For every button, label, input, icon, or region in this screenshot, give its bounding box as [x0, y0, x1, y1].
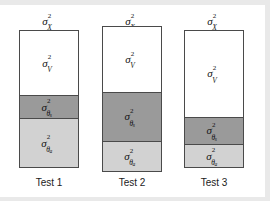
- superscript-two-glyph: 2: [212, 121, 216, 129]
- superscript-two-glyph: 2: [47, 97, 51, 105]
- superscript-two-glyph: 2: [48, 53, 52, 61]
- scan-edge-right: [265, 0, 270, 201]
- subscript-a-glyph: a: [132, 161, 135, 167]
- variance-decomposition-figure: σ2X σ2V σ2θs σ2θa Test 1 σ2: [0, 0, 270, 201]
- subscript-s-glyph: s: [133, 122, 135, 128]
- subscript-v-glyph: V: [212, 76, 217, 85]
- segment-systematic-error-test-1: σ2θs: [20, 95, 78, 118]
- scan-edge-bottom: [0, 197, 270, 201]
- category-label-test-3: Test 3: [184, 178, 244, 188]
- systematic-error-variance-label-test-3: σ2θs: [207, 121, 222, 140]
- segment-true-score-test-3: σ2V: [185, 31, 243, 117]
- superscript-two-glyph: 2: [130, 107, 134, 115]
- subscript-v-glyph: V: [47, 65, 52, 74]
- superscript-two-glyph: 2: [47, 133, 51, 141]
- bar-column-test-3: σ2X σ2V σ2θs σ2θa Test 3: [184, 12, 244, 194]
- subscript-a-glyph: a: [214, 161, 217, 167]
- segment-true-score-test-1: σ2V: [20, 31, 78, 95]
- scan-edge-top: [0, 0, 270, 5]
- subscript-a-glyph: a: [49, 148, 52, 154]
- subscript-s-glyph: s: [50, 112, 52, 118]
- superscript-two-glyph: 2: [48, 12, 52, 20]
- true-score-variance-label-test-3: σ2V: [207, 64, 221, 83]
- superscript-two-glyph: 2: [212, 146, 216, 154]
- total-variance-label-test-3: σ2X: [184, 12, 244, 31]
- total-variance-label-test-1: σ2X: [19, 12, 79, 31]
- random-error-variance-label-test-3: σ2θa: [206, 147, 221, 166]
- superscript-two-glyph: 2: [131, 12, 135, 20]
- random-error-variance-label-test-1: σ2θa: [41, 134, 56, 153]
- segment-systematic-error-test-2: σ2θs: [103, 92, 161, 141]
- category-label-test-1: Test 1: [19, 178, 79, 188]
- random-error-variance-label-test-2: σ2θa: [124, 147, 139, 166]
- segment-random-error-test-2: σ2θa: [103, 141, 161, 171]
- superscript-two-glyph: 2: [213, 64, 217, 72]
- stacked-bar-test-1: σ2V σ2θs σ2θa: [19, 30, 79, 168]
- segment-random-error-test-3: σ2θa: [185, 144, 243, 167]
- superscript-two-glyph: 2: [131, 50, 135, 58]
- superscript-two-glyph: 2: [213, 12, 217, 20]
- stacked-bar-test-2: σ2V σ2θs σ2θa: [102, 26, 162, 172]
- segment-random-error-test-1: σ2θa: [20, 118, 78, 167]
- systematic-error-variance-label-test-2: σ2θs: [125, 107, 140, 126]
- bar-column-test-1: σ2X σ2V σ2θs σ2θa Test 1: [19, 12, 79, 194]
- segment-true-score-test-2: σ2V: [103, 27, 161, 92]
- stacked-bar-test-3: σ2V σ2θs σ2θa: [184, 30, 244, 168]
- superscript-two-glyph: 2: [130, 147, 134, 155]
- subscript-v-glyph: V: [130, 61, 135, 70]
- subscript-s-glyph: s: [215, 136, 217, 142]
- systematic-error-variance-label-test-1: σ2θs: [42, 98, 57, 117]
- true-score-variance-label-test-1: σ2V: [42, 54, 56, 73]
- segment-systematic-error-test-3: σ2θs: [185, 117, 243, 144]
- true-score-variance-label-test-2: σ2V: [125, 50, 139, 69]
- category-label-test-2: Test 2: [102, 178, 162, 188]
- bar-column-test-2: σ2X σ2V σ2θs σ2θa Test 2: [102, 12, 162, 194]
